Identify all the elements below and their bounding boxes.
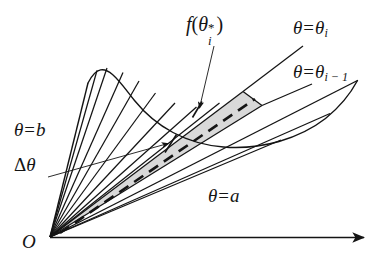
label-theta-equals-theta-i-minus-1: θ=θi − 1 [293,62,348,84]
label-theta-i-lhs: θ [293,17,302,38]
label-theta-i-1-subscript: i − 1 [324,70,348,84]
label-theta-b-equals: = [23,119,36,140]
ray-theta-a [50,81,358,238]
label-theta-i-1-rhs: θ [315,61,324,82]
subdivision-ray [50,103,220,237]
label-f-theta-star-sup: * [208,22,214,35]
label-theta-equals-b: θ=b [14,120,46,139]
leader-f-theta-star [200,46,215,108]
label-origin-O: O [22,232,36,251]
label-f-theta-star-theta: θ [198,13,208,35]
label-delta-symbol: Δ [14,154,26,175]
label-f-theta-star-close: ) [216,13,223,35]
label-theta-b-rhs: b [36,119,46,140]
label-theta-equals-a: θ=a [208,186,240,205]
label-theta-i-1-equals: = [302,61,315,82]
label-theta-i-1-lhs: θ [293,61,302,82]
label-delta-theta: Δθ [14,155,36,174]
label-origin-text: O [22,231,36,252]
label-theta-i-subscript: i [324,26,327,40]
figure-canvas [0,0,384,272]
label-f-theta-star: f(θ*i) [186,14,223,34]
polar-area-figure: f(θ*i) θ=θi θ=θi − 1 θ=b Δθ θ=a O [0,0,384,272]
label-delta-theta-symbol: θ [26,154,35,175]
label-theta-a-lhs: θ [208,185,217,206]
label-theta-a-rhs: a [230,185,240,206]
label-theta-i-equals: = [302,17,315,38]
label-theta-a-equals: = [217,185,230,206]
ray-extension-theta-i-minus-1 [262,84,312,106]
label-theta-equals-theta-i: θ=θi [293,18,328,40]
label-theta-b-lhs: θ [14,119,23,140]
label-f-theta-star-sub: i [208,35,212,48]
label-theta-i-rhs: θ [315,17,324,38]
